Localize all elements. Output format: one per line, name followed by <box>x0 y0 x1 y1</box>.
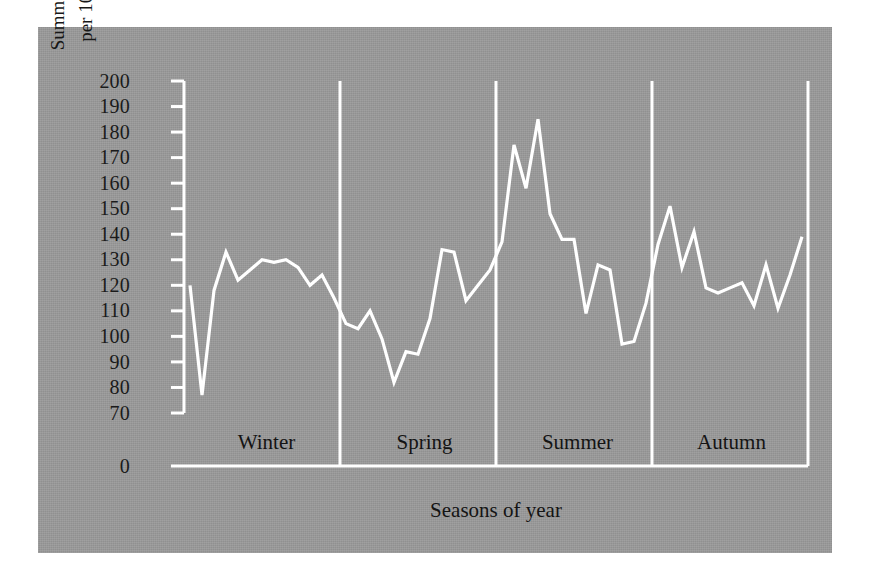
axis-layer <box>171 81 808 466</box>
chart-plot-area <box>0 0 870 582</box>
figure-root: Summed weekly attack rate per 100 000 (1… <box>0 0 870 582</box>
season-divider-layer <box>340 81 808 466</box>
